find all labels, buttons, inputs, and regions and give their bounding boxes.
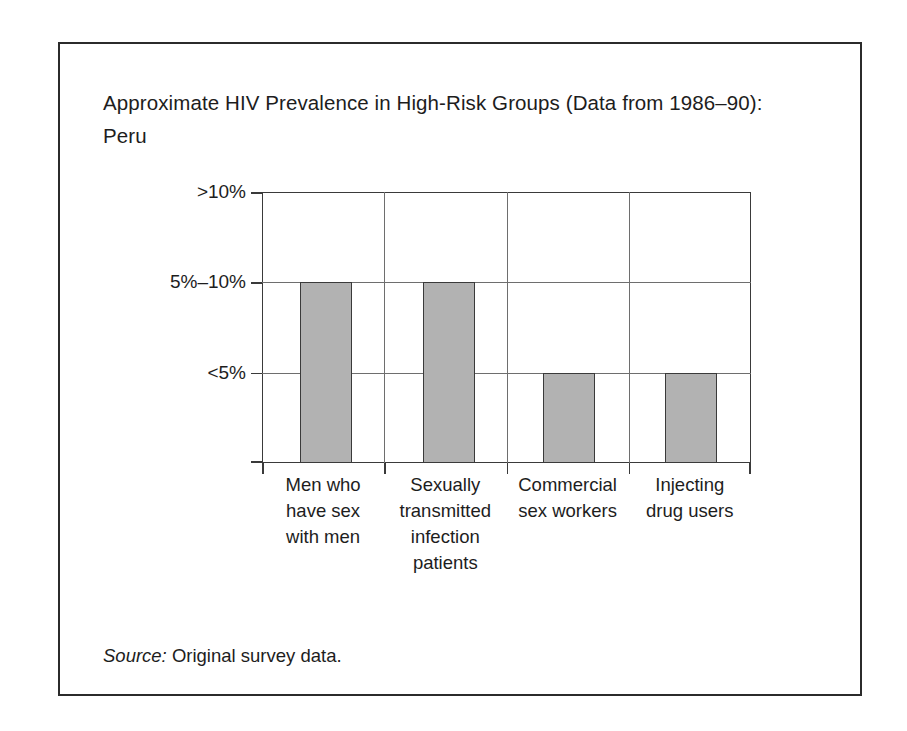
y-axis-label-gt10: >10% — [197, 181, 246, 203]
y-tick-gt10 — [251, 192, 262, 194]
source-label: Source: — [103, 645, 167, 666]
x-axis-label-line: Sexually — [384, 472, 506, 498]
y-axis-label-5to10: 5%–10% — [170, 271, 246, 293]
category-separator-1 — [384, 192, 385, 463]
x-axis-label-line: Men who — [262, 472, 384, 498]
x-axis-label-injecting-drug-users: Injecting drug users — [629, 472, 751, 524]
x-axis-label-line: sex workers — [507, 498, 629, 524]
category-separator-3 — [629, 192, 630, 463]
x-axis-label-line: patients — [384, 550, 506, 576]
source-note: Source: Original survey data. — [103, 645, 342, 667]
x-axis-label-commercial-sex-workers: Commercial sex workers — [507, 472, 629, 524]
plot-area — [262, 192, 751, 463]
x-axis-label-line: infection — [384, 524, 506, 550]
y-tick-lt5 — [251, 373, 262, 375]
bar-injecting-drug-users[interactable] — [665, 373, 717, 463]
category-separator-2 — [507, 192, 508, 463]
bar-sexually-transmitted-infection-patients[interactable] — [423, 282, 475, 463]
x-axis-label-line: drug users — [629, 498, 751, 524]
x-axis-label-line: transmitted — [384, 498, 506, 524]
x-axis-label-line: Injecting — [629, 472, 751, 498]
x-axis-label-men-who-have-sex-with-men: Men who have sex with men — [262, 472, 384, 550]
chart-title: Approximate HIV Prevalence in High-Risk … — [103, 86, 793, 152]
y-axis-label-lt5: <5% — [207, 362, 246, 384]
x-axis-label-line: have sex — [262, 498, 384, 524]
x-axis-label-sexually-transmitted-infection-patients: Sexually transmitted infection patients — [384, 472, 506, 576]
x-axis-label-line: with men — [262, 524, 384, 550]
bar-men-who-have-sex-with-men[interactable] — [300, 282, 352, 463]
x-axis-labels: Men who have sex with men Sexually trans… — [262, 472, 751, 592]
y-tick-5to10 — [251, 282, 262, 284]
source-text: Original survey data. — [172, 645, 342, 666]
x-axis-label-line: Commercial — [507, 472, 629, 498]
y-tick-baseline — [251, 461, 262, 463]
y-axis-labels: >10% 5%–10% <5% — [120, 192, 246, 463]
bar-commercial-sex-workers[interactable] — [543, 373, 595, 463]
